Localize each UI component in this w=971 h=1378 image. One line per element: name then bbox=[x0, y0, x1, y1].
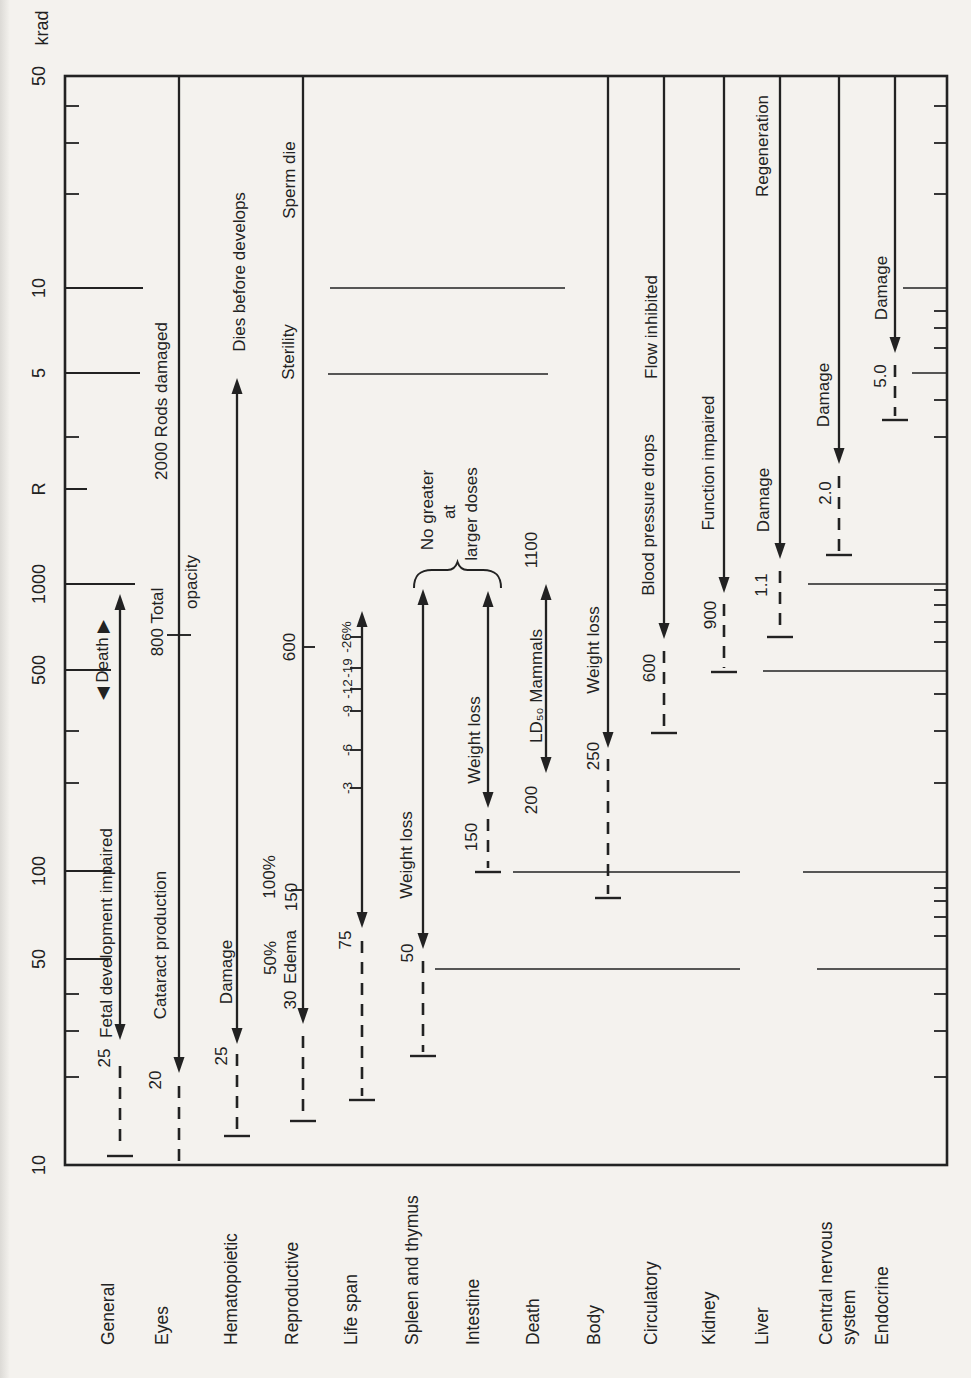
system-central-nervous-system: 2.0DamageCentral nervoussystem bbox=[814, 76, 860, 1345]
axis-tick-label: 100 bbox=[29, 856, 49, 886]
arrowhead-icon bbox=[418, 589, 429, 605]
category-label: Circulatory bbox=[641, 1261, 661, 1345]
annotation-label: 600 bbox=[280, 633, 299, 661]
axis-tick-label: R bbox=[29, 483, 49, 496]
annotation-label: 50 bbox=[398, 944, 417, 963]
axis-tick-label: 500 bbox=[29, 655, 49, 685]
category-label: Central nervous bbox=[816, 1221, 836, 1345]
annotation-label: 150 bbox=[282, 883, 301, 911]
axis-tick-label: 10 bbox=[29, 278, 49, 298]
axis-unit-label: krad bbox=[32, 10, 52, 45]
annotation-label: 600 bbox=[640, 654, 659, 682]
annotation-label: 1.1 bbox=[752, 573, 771, 597]
annotation-label: Fetal development impaired bbox=[97, 828, 116, 1038]
annotation-label: Damage bbox=[754, 468, 773, 532]
system-tick-label: -6 bbox=[340, 744, 355, 756]
brace-label: at bbox=[440, 505, 459, 519]
arrowhead-icon bbox=[603, 732, 614, 748]
arrowhead-icon bbox=[541, 584, 552, 600]
arrowhead-icon bbox=[775, 543, 786, 559]
system-kidney: 900Function impairedKidney bbox=[699, 76, 738, 1345]
system-endocrine: 5.0DamageEndocrine bbox=[871, 76, 909, 1345]
arrowhead-icon bbox=[232, 378, 243, 394]
system-hematopoietic: 25DamageDies before developsHematopoieti… bbox=[212, 192, 251, 1345]
annotation-label: 100% bbox=[260, 855, 279, 898]
annotation-label: 30 bbox=[281, 991, 300, 1010]
arrowhead-icon bbox=[115, 1024, 126, 1040]
arrowhead-icon bbox=[418, 933, 429, 949]
annotation-label: Damage bbox=[814, 363, 833, 427]
annotation-label: Weight loss bbox=[584, 606, 603, 694]
category-label: system bbox=[839, 1290, 859, 1345]
system-reproductive: 3050%Edema100%150600SterilitySperm dieRe… bbox=[260, 76, 317, 1345]
annotation-label: 20 bbox=[146, 1071, 165, 1090]
arrowhead-icon bbox=[357, 611, 368, 627]
category-label: Kidney bbox=[699, 1291, 719, 1345]
brace-label: No greater bbox=[418, 470, 437, 551]
annotation-label: opacity bbox=[182, 555, 201, 609]
arrowhead-icon bbox=[483, 792, 494, 808]
arrowhead-icon bbox=[483, 591, 494, 607]
annotation-label: Weight loss bbox=[397, 811, 416, 899]
annotation-label: 200 bbox=[522, 786, 541, 814]
system-tick-label: -12 bbox=[340, 679, 355, 699]
category-label: Intestine bbox=[463, 1279, 483, 1345]
arrowhead-icon bbox=[719, 577, 730, 593]
arrowhead-icon bbox=[659, 623, 670, 639]
axis-tick-label: 1000 bbox=[29, 564, 49, 604]
category-label: Life span bbox=[341, 1274, 361, 1345]
axis-tick-label: 5 bbox=[29, 368, 49, 378]
axis-tick-label: 50 bbox=[29, 949, 49, 969]
system-general: 25Fetal development impaired◀ Death ▶Gen… bbox=[93, 594, 134, 1345]
annotation-label: Function impaired bbox=[699, 395, 718, 530]
annotation-label: Weight loss bbox=[465, 696, 484, 784]
annotation-label: 5.0 bbox=[871, 364, 890, 388]
category-label: Hematopoietic bbox=[221, 1233, 241, 1345]
annotation-label: Damage bbox=[217, 940, 236, 1004]
arrowhead-icon bbox=[541, 757, 552, 773]
category-label: Spleen and thymus bbox=[402, 1195, 422, 1345]
scan-edge-shadow bbox=[0, 0, 10, 1378]
annotation-label: 1100 bbox=[522, 532, 541, 569]
system-spleen-and-thymus: 50Weight lossSpleen and thymus bbox=[397, 589, 437, 1345]
system-death: 1100200LD₅₀ MammalsDeath bbox=[522, 532, 552, 1345]
axis-tick-label: 50 bbox=[29, 66, 49, 86]
system-tick-label: -19 bbox=[340, 658, 355, 678]
annotation-label: 25 bbox=[95, 1049, 114, 1068]
arrowhead-icon bbox=[890, 337, 901, 353]
category-label: Endocrine bbox=[872, 1266, 892, 1345]
system-body: 250Weight lossBody bbox=[584, 76, 622, 1345]
range-brace bbox=[414, 562, 501, 588]
annotation-label: 150 bbox=[462, 823, 481, 851]
system-tick-label: -26% bbox=[339, 621, 354, 653]
category-label: Eyes bbox=[152, 1306, 172, 1345]
arrowhead-icon bbox=[357, 912, 368, 928]
annotation-label: LD₅₀ Mammals bbox=[527, 629, 546, 743]
annotation-label: 250 bbox=[584, 742, 603, 770]
annotation-label: Sterility bbox=[279, 324, 298, 380]
category-label: Body bbox=[584, 1305, 604, 1345]
annotation-label: ◀ Death ▶ bbox=[93, 619, 112, 701]
system-liver: 1.1DamageRegenerationLiver bbox=[752, 76, 794, 1345]
annotation-label: 2000 Rods damaged bbox=[152, 322, 171, 480]
category-label: Liver bbox=[752, 1307, 772, 1345]
annotation-label: Edema bbox=[281, 930, 300, 984]
annotation-label: 75 bbox=[336, 931, 355, 950]
arrowhead-icon bbox=[115, 594, 126, 610]
axis-tick-label: 10 bbox=[29, 1155, 49, 1175]
arrowhead-icon bbox=[834, 448, 845, 464]
chart-frame bbox=[65, 76, 947, 1165]
annotation-label: Regeneration bbox=[753, 95, 772, 197]
annotation-label: Damage bbox=[872, 256, 891, 320]
category-label: Death bbox=[523, 1298, 543, 1345]
annotation-label: Blood pressure drops bbox=[639, 434, 658, 596]
annotation-label: Sperm die bbox=[280, 141, 299, 218]
arrowhead-icon bbox=[174, 1057, 185, 1073]
annotation-label: 2.0 bbox=[816, 481, 835, 505]
scanned-figure-page: 50105R10005001005010krad25Fetal developm… bbox=[0, 0, 971, 1378]
arrowhead-icon bbox=[232, 1028, 243, 1044]
system-intestine: 150Weight lossIntestine bbox=[462, 591, 502, 1345]
dose-effect-chart: 50105R10005001005010krad25Fetal developm… bbox=[0, 0, 971, 1378]
system-tick-label: -3 bbox=[340, 782, 355, 794]
system-eyes: 20Cataract production800 Totalopacity200… bbox=[146, 76, 201, 1345]
